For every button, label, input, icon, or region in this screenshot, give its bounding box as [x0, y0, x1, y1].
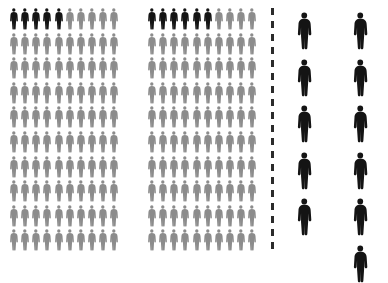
person-figure-muted-icon	[202, 205, 213, 230]
person-figure-muted-icon	[224, 180, 235, 205]
person-figure-muted-icon	[42, 106, 53, 131]
person-figure-muted-icon	[202, 156, 213, 181]
person-figure-muted-icon	[109, 156, 120, 181]
person-figure-highlighted-icon	[8, 8, 19, 33]
person-figure-muted-icon	[213, 156, 224, 181]
person-figure-muted-icon	[30, 180, 41, 205]
person-figure-muted-icon	[180, 205, 191, 230]
person-figure-muted-icon	[168, 106, 179, 131]
person-figure-muted-icon	[146, 156, 157, 181]
person-figure-highlighted-icon	[352, 59, 369, 97]
person-figure-muted-icon	[30, 156, 41, 181]
person-figure-muted-icon	[247, 205, 258, 230]
person-figure-muted-icon	[53, 57, 64, 82]
person-figure-muted-icon	[180, 33, 191, 58]
person-figure-muted-icon	[75, 131, 86, 156]
person-figure-muted-icon	[42, 229, 53, 254]
person-figure-muted-icon	[191, 33, 202, 58]
pictogram-group-right-column-a	[296, 12, 313, 236]
person-figure-muted-icon	[64, 205, 75, 230]
person-figure-muted-icon	[64, 82, 75, 107]
person-figure-muted-icon	[168, 156, 179, 181]
person-figure-muted-icon	[168, 205, 179, 230]
person-figure-muted-icon	[64, 229, 75, 254]
person-figure-muted-icon	[109, 82, 120, 107]
person-figure-muted-icon	[191, 156, 202, 181]
person-figure-muted-icon	[64, 57, 75, 82]
person-figure-muted-icon	[168, 131, 179, 156]
person-figure-muted-icon	[247, 131, 258, 156]
person-figure-muted-icon	[42, 131, 53, 156]
person-figure-muted-icon	[224, 205, 235, 230]
person-figure-muted-icon	[53, 156, 64, 181]
person-figure-muted-icon	[42, 205, 53, 230]
person-figure-muted-icon	[180, 180, 191, 205]
person-figure-muted-icon	[30, 82, 41, 107]
person-figure-muted-icon	[8, 57, 19, 82]
person-figure-muted-icon	[30, 57, 41, 82]
pictogram-group-left-grid	[8, 8, 120, 254]
person-figure-muted-icon	[98, 205, 109, 230]
person-figure-muted-icon	[42, 180, 53, 205]
person-figure-muted-icon	[19, 33, 30, 58]
person-figure-muted-icon	[224, 131, 235, 156]
person-figure-muted-icon	[75, 33, 86, 58]
person-figure-muted-icon	[86, 205, 97, 230]
person-figure-muted-icon	[109, 57, 120, 82]
person-figure-muted-icon	[146, 57, 157, 82]
person-figure-muted-icon	[109, 33, 120, 58]
person-figure-muted-icon	[191, 57, 202, 82]
person-figure-muted-icon	[191, 106, 202, 131]
person-figure-muted-icon	[213, 205, 224, 230]
person-figure-muted-icon	[109, 131, 120, 156]
person-figure-muted-icon	[202, 229, 213, 254]
person-figure-muted-icon	[109, 106, 120, 131]
person-figure-muted-icon	[146, 106, 157, 131]
person-figure-muted-icon	[191, 82, 202, 107]
person-figure-muted-icon	[157, 33, 168, 58]
person-figure-muted-icon	[86, 156, 97, 181]
pictogram-group-middle-grid	[146, 8, 258, 254]
person-figure-muted-icon	[191, 131, 202, 156]
person-figure-muted-icon	[191, 180, 202, 205]
person-figure-highlighted-icon	[168, 8, 179, 33]
person-figure-muted-icon	[213, 229, 224, 254]
person-figure-muted-icon	[19, 131, 30, 156]
person-figure-muted-icon	[157, 229, 168, 254]
person-figure-muted-icon	[168, 82, 179, 107]
person-figure-muted-icon	[236, 131, 247, 156]
person-figure-muted-icon	[213, 57, 224, 82]
person-figure-muted-icon	[247, 57, 258, 82]
person-figure-muted-icon	[75, 180, 86, 205]
person-figure-muted-icon	[224, 8, 235, 33]
person-figure-muted-icon	[247, 229, 258, 254]
person-figure-muted-icon	[247, 106, 258, 131]
person-figure-muted-icon	[109, 8, 120, 33]
person-figure-muted-icon	[180, 229, 191, 254]
person-figure-muted-icon	[157, 156, 168, 181]
person-figure-muted-icon	[157, 82, 168, 107]
person-figure-muted-icon	[98, 33, 109, 58]
person-figure-muted-icon	[75, 229, 86, 254]
person-figure-muted-icon	[157, 106, 168, 131]
person-figure-muted-icon	[180, 57, 191, 82]
person-figure-muted-icon	[168, 229, 179, 254]
person-figure-muted-icon	[247, 33, 258, 58]
person-figure-muted-icon	[53, 229, 64, 254]
person-figure-muted-icon	[75, 205, 86, 230]
person-figure-muted-icon	[224, 82, 235, 107]
person-figure-muted-icon	[86, 180, 97, 205]
person-figure-muted-icon	[86, 229, 97, 254]
person-figure-muted-icon	[75, 156, 86, 181]
person-figure-muted-icon	[86, 57, 97, 82]
person-figure-muted-icon	[19, 205, 30, 230]
person-figure-muted-icon	[146, 82, 157, 107]
person-figure-muted-icon	[8, 82, 19, 107]
person-figure-muted-icon	[157, 180, 168, 205]
person-figure-muted-icon	[75, 82, 86, 107]
person-figure-muted-icon	[75, 106, 86, 131]
person-figure-muted-icon	[98, 57, 109, 82]
person-figure-muted-icon	[19, 57, 30, 82]
person-figure-muted-icon	[202, 106, 213, 131]
